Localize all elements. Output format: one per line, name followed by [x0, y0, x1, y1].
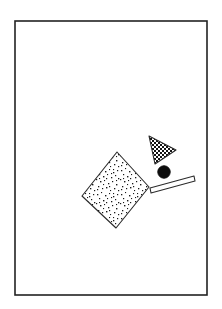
figure-canvas — [0, 0, 222, 309]
figure-svg — [0, 0, 222, 309]
page-background — [0, 0, 222, 309]
black-circle-shape — [158, 166, 170, 178]
